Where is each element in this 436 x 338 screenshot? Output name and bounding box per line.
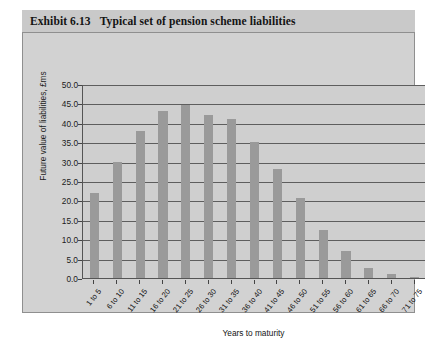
x-axis-tick-mark — [368, 280, 369, 284]
y-axis-tick-mark — [78, 260, 82, 261]
x-axis-tick-mark — [139, 280, 140, 284]
x-axis-tick-mark — [391, 280, 392, 284]
y-axis-tick-mark — [78, 279, 82, 280]
x-axis-tick-mark — [162, 280, 163, 284]
gridline — [83, 85, 425, 86]
y-axis-labels: 0.05.010.015.020.025.030.035.040.045.050… — [39, 85, 78, 279]
exhibit-number: Exhibit 6.13 — [30, 15, 91, 27]
y-axis-tick-mark — [78, 182, 82, 183]
y-axis-tick-label: 20.0 — [44, 196, 78, 206]
x-axis-tick-label-text: 1 to 5 — [85, 287, 104, 308]
x-axis-labels: 1 to 56 to 1011 to 1516 to 2021 to 2526 … — [82, 280, 425, 325]
y-axis-tick-label: 40.0 — [44, 119, 78, 129]
x-axis-tick-mark — [208, 280, 209, 284]
x-axis-tick-mark — [322, 280, 323, 284]
bar — [181, 105, 190, 278]
bar — [227, 119, 236, 278]
gridline — [83, 104, 425, 105]
x-axis-tick-label-text: 71 to 75 — [400, 287, 424, 314]
y-axis-tick-mark — [78, 240, 82, 241]
y-axis-tick-mark — [78, 221, 82, 222]
x-axis-tick-mark — [185, 280, 186, 284]
x-axis-tick-label-text: 21 to 25 — [171, 287, 195, 314]
x-axis-tick-label-text: 31 to 35 — [217, 287, 241, 314]
x-axis-tick-label-text: 41 to 45 — [262, 287, 286, 314]
x-axis-tick-label-text: 16 to 20 — [148, 287, 172, 314]
x-axis-tick-mark — [276, 280, 277, 284]
y-axis-tick-label: 15.0 — [44, 216, 78, 226]
y-axis-tick-mark — [78, 163, 82, 164]
x-axis-tick-mark — [345, 280, 346, 284]
x-axis-tick-label-text: 51 to 55 — [308, 287, 332, 314]
y-axis-tick-label: 0.0 — [44, 274, 78, 284]
x-axis-tick-mark — [254, 280, 255, 284]
x-axis-tick-mark — [116, 280, 117, 284]
exhibit-title-text: Typical set of pension scheme liabilitie… — [100, 15, 296, 27]
x-axis-tick-mark — [93, 280, 94, 284]
x-axis-tick-label-text: 61 to 65 — [354, 287, 378, 314]
x-axis-tick-mark — [414, 280, 415, 284]
y-axis-tick-mark — [78, 124, 82, 125]
y-axis-tick-mark — [78, 104, 82, 105]
x-axis-tick-label-text: 26 to 30 — [194, 287, 218, 314]
y-axis-tick-mark — [78, 201, 82, 202]
bar — [136, 131, 145, 278]
y-axis-tick-mark — [78, 85, 82, 86]
y-axis-tick-label: 45.0 — [44, 99, 78, 109]
y-axis-tick-label: 30.0 — [44, 158, 78, 168]
exhibit-title-band: Exhibit 6.13Typical set of pension schem… — [22, 10, 415, 32]
bar — [158, 111, 167, 278]
bar — [250, 142, 259, 278]
y-axis-tick-label: 5.0 — [44, 255, 78, 265]
page-title: Exhibit 6.13Typical set of pension schem… — [22, 15, 296, 27]
bar — [204, 115, 213, 278]
y-axis-tick-mark — [78, 143, 82, 144]
y-axis-tick-label: 35.0 — [44, 138, 78, 148]
x-axis-title: Years to maturity — [82, 328, 425, 338]
x-axis-tick-label-text: 11 to 15 — [126, 287, 150, 314]
plot-area — [82, 85, 425, 279]
x-axis-tick-mark — [299, 280, 300, 284]
y-axis-tick-label: 10.0 — [44, 235, 78, 245]
bar — [273, 169, 282, 278]
x-axis-tick-label-text: 36 to 40 — [240, 287, 264, 314]
x-axis-tick-label-text: 66 to 70 — [377, 287, 401, 314]
gridline — [83, 124, 425, 125]
chart-frame: Future value of liabilities, £ms 0.05.01… — [22, 32, 415, 313]
y-axis-tick-label: 25.0 — [44, 177, 78, 187]
x-axis-tick-label-text: 46 to 50 — [285, 287, 309, 314]
x-axis-tick-mark — [231, 280, 232, 284]
bar — [113, 162, 122, 278]
y-axis-tick-label: 50.0 — [44, 80, 78, 90]
bar — [90, 193, 99, 278]
x-axis-tick-label-text: 56 to 60 — [331, 287, 355, 314]
x-axis-tick-label-text: 6 to 10 — [105, 287, 126, 311]
